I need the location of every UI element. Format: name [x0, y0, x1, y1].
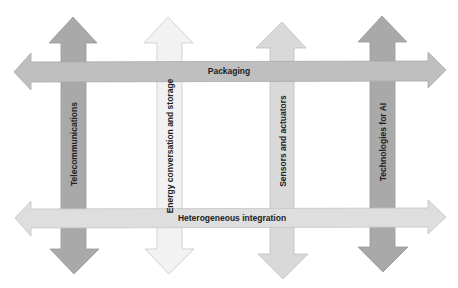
sensors-actuators-label: Sensors and actuators [278, 95, 288, 187]
telecommunications-label: Telecommunications [69, 102, 79, 186]
technologies-ai-label: Technologies for AI [378, 103, 388, 181]
heterogeneous-integration-label: Heterogeneous integration [178, 213, 286, 223]
packaging-label: Packaging [208, 66, 251, 76]
energy-storage-label: Energy conversation and storage [165, 79, 175, 214]
technology-matrix-diagram: Packaging Heterogeneous integration Tele… [0, 0, 458, 288]
